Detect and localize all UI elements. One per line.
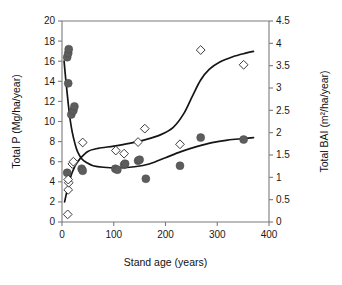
right-tick-label: 3 — [276, 82, 282, 93]
data-point-circle — [121, 160, 129, 168]
left-tick-label: 16 — [44, 56, 56, 67]
left-tick-label: 8 — [49, 136, 55, 147]
left-tick-label: 6 — [49, 156, 55, 167]
left-axis-title: Total P (Mg/ha/year) — [10, 74, 22, 168]
scatter-plot-svg: 02468101214161820 00.511.522.533.544.5 0… — [0, 0, 342, 285]
x-tick-label: 400 — [261, 229, 278, 240]
left-tick-label: 0 — [49, 216, 55, 227]
x-tick-label: 100 — [105, 229, 122, 240]
left-tick-label: 10 — [44, 116, 56, 127]
right-tick-label: 4 — [276, 38, 282, 49]
data-point-circle — [70, 102, 78, 110]
x-tick-label: 300 — [209, 229, 226, 240]
right-tick-label: 3.5 — [276, 60, 290, 71]
left-tick-label: 4 — [49, 176, 55, 187]
right-axis-title: Total BAI (m²/ha/year) — [318, 70, 330, 172]
right-tick-label: 1.5 — [276, 149, 290, 160]
right-tick-label: 0 — [276, 216, 282, 227]
x-tick-label: 200 — [157, 229, 174, 240]
left-tick-label: 18 — [44, 36, 56, 47]
x-tick-label: 0 — [59, 229, 65, 240]
chart-figure: 02468101214161820 00.511.522.533.544.5 0… — [0, 0, 342, 285]
left-tick-label: 14 — [44, 76, 56, 87]
right-tick-label: 0.5 — [276, 194, 290, 205]
x-axis-title: Stand age (years) — [124, 256, 207, 268]
right-tick-label: 2.5 — [276, 105, 290, 116]
data-point-circle — [142, 175, 150, 183]
data-point-circle — [64, 79, 72, 87]
data-point-circle — [65, 45, 73, 53]
left-tick-label: 2 — [49, 196, 55, 207]
data-point-circle — [136, 156, 144, 164]
data-point-circle — [197, 134, 205, 142]
data-point-circle — [176, 162, 184, 170]
right-tick-label: 1 — [276, 172, 282, 183]
right-tick-label: 4.5 — [276, 15, 290, 26]
data-point-circle — [79, 167, 87, 175]
left-tick-label: 20 — [44, 15, 56, 26]
data-point-circle — [113, 166, 121, 174]
right-tick-label: 2 — [276, 127, 282, 138]
left-tick-label: 12 — [44, 96, 56, 107]
data-point-circle — [240, 136, 248, 144]
